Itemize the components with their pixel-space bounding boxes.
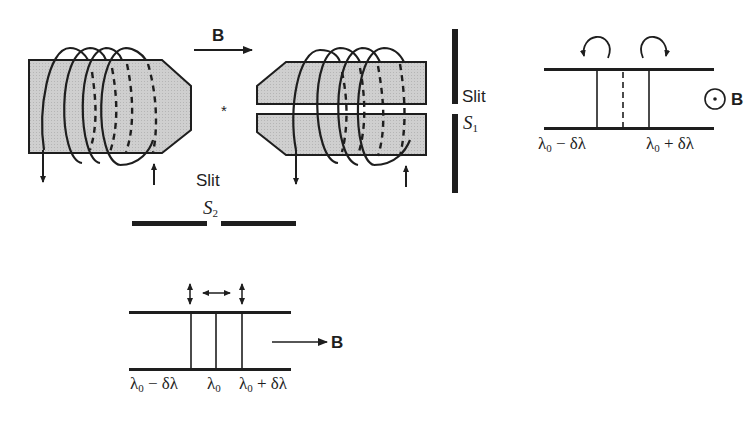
slit-s1-label: Slit [462,88,486,105]
field-label-top: B [212,27,224,44]
longitudinal-center-label: λ0 [207,375,221,394]
longitudinal-left-label: λ0 − δλ [130,375,178,394]
circular-arrow-cw-icon [641,37,666,58]
field-label-transverse: B [731,91,743,108]
star-mark: * [221,103,227,118]
zeeman-diagram: B * Slit S2 Slit S1 B λ0 − δλ λ0 + δλ B … [0,0,754,429]
left-magnet [29,48,191,185]
slit-s2 [132,221,296,226]
circular-arrow-ccw-icon [584,37,610,58]
slit-s2-label: Slit [196,172,220,189]
field-label-longitudinal: B [331,334,343,351]
right-magnet [257,48,426,187]
longitudinal-pattern [129,284,327,371]
transverse-pattern [544,37,725,130]
longitudinal-right-label: λ0 + δλ [239,375,287,394]
slit-s2-symbol: S2 [203,198,218,219]
transverse-right-label: λ0 + δλ [646,135,694,154]
transverse-left-label: λ0 − δλ [538,135,586,154]
slit-s1 [452,29,458,193]
diagram-graphics [0,0,754,429]
slit-s1-symbol: S1 [463,113,478,134]
